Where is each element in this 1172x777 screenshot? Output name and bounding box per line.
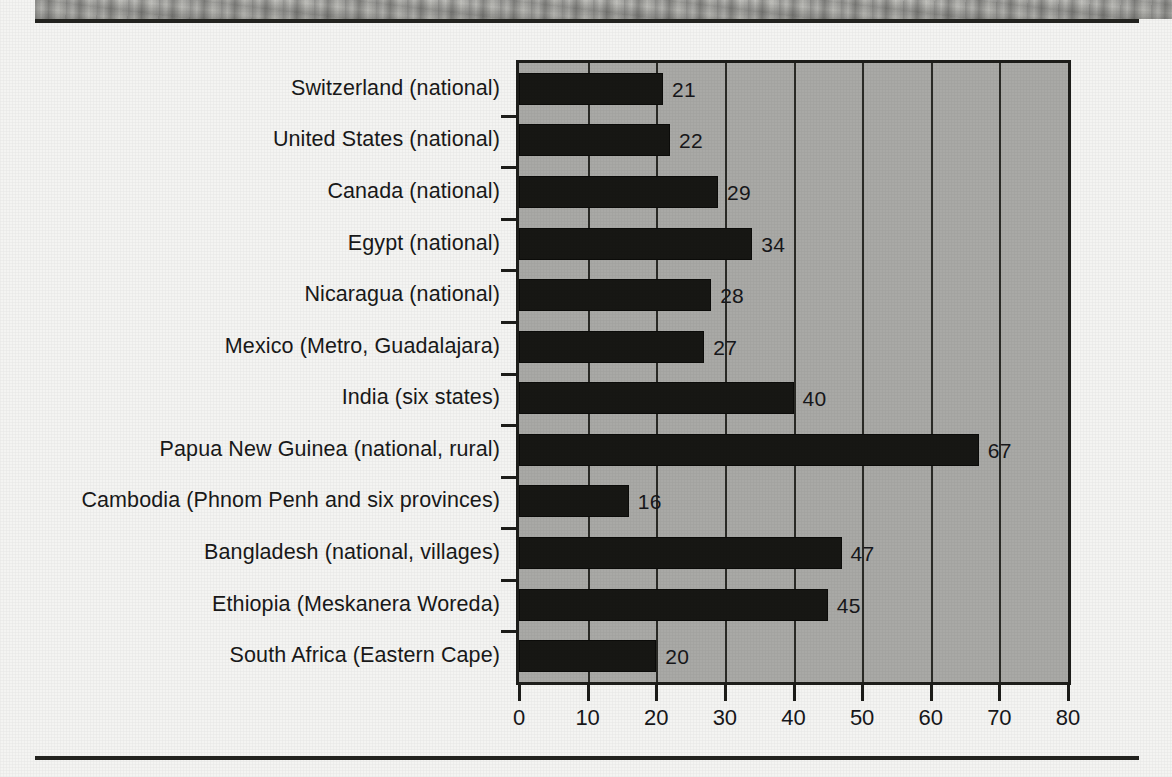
category-label: India (six states) — [342, 387, 500, 409]
bar-value-label: 45 — [837, 595, 861, 616]
x-axis-tick-label: 70 — [987, 707, 1011, 729]
bar-value-label: 34 — [761, 234, 785, 255]
bar-value-label: 29 — [727, 182, 751, 203]
bar-value-label: 20 — [665, 646, 689, 667]
gridline-70 — [999, 63, 1001, 682]
category-label: Ethiopia (Meskanera Woreda) — [212, 594, 500, 616]
bar — [519, 279, 711, 311]
y-axis-tick — [501, 115, 516, 118]
bar — [519, 331, 704, 363]
x-axis-tick-70 — [998, 685, 1001, 701]
gridline-50 — [862, 63, 864, 682]
x-axis-tick-label: 60 — [919, 707, 943, 729]
bar-value-label: 40 — [803, 388, 827, 409]
x-axis-tick-label: 80 — [1056, 707, 1080, 729]
bar — [519, 485, 629, 517]
bar — [519, 382, 794, 414]
x-axis-tick-label: 40 — [781, 707, 805, 729]
category-label: Canada (national) — [327, 181, 500, 203]
x-axis-tick-10 — [587, 685, 590, 701]
bar-value-label: 28 — [720, 285, 744, 306]
y-axis-tick — [501, 269, 516, 272]
category-label: Nicaragua (national) — [304, 284, 500, 306]
bar-value-label: 21 — [672, 79, 696, 100]
y-axis-tick — [501, 579, 516, 582]
bar-value-label: 27 — [713, 337, 737, 358]
horizontal-bar-chart: 212229342827406716474520 Switzerland (na… — [0, 0, 1172, 777]
y-axis-tick — [501, 166, 516, 169]
y-axis-tick — [501, 373, 516, 376]
y-axis-tick — [501, 630, 516, 633]
bar — [519, 640, 656, 672]
y-axis-tick — [501, 527, 516, 530]
bar-value-label: 47 — [851, 543, 875, 564]
figure-page: 212229342827406716474520 Switzerland (na… — [0, 0, 1172, 777]
bar — [519, 589, 828, 621]
bar — [519, 228, 752, 260]
category-label: Cambodia (Phnom Penh and six provinces) — [81, 490, 500, 512]
category-label: United States (national) — [273, 129, 500, 151]
x-axis-tick-label: 30 — [713, 707, 737, 729]
bar-value-label: 22 — [679, 130, 703, 151]
x-axis-tick-30 — [724, 685, 727, 701]
y-axis-tick — [501, 218, 516, 221]
gridline-60 — [931, 63, 933, 682]
category-label: Egypt (national) — [348, 233, 500, 255]
x-axis-tick-label: 20 — [644, 707, 668, 729]
bar — [519, 434, 979, 466]
x-axis-tick-label: 10 — [575, 707, 599, 729]
bar-value-label: 16 — [638, 491, 662, 512]
bar — [519, 537, 842, 569]
x-axis-tick-80 — [1067, 685, 1070, 701]
x-axis-tick-20 — [655, 685, 658, 701]
bar-value-label: 67 — [988, 440, 1012, 461]
y-axis-tick — [501, 321, 516, 324]
y-axis-tick — [501, 424, 516, 427]
x-axis-tick-label: 0 — [513, 707, 525, 729]
bottom-horizontal-rule — [35, 756, 1139, 760]
x-axis-tick-50 — [861, 685, 864, 701]
x-axis-tick-label: 50 — [850, 707, 874, 729]
category-label: Mexico (Metro, Guadalajara) — [225, 336, 500, 358]
x-axis-tick-40 — [793, 685, 796, 701]
category-label: Papua New Guinea (national, rural) — [160, 439, 500, 461]
category-label: Switzerland (national) — [291, 78, 500, 100]
bar — [519, 124, 670, 156]
bar — [519, 176, 718, 208]
x-axis-tick-0 — [518, 685, 521, 701]
category-label: Bangladesh (national, villages) — [204, 542, 500, 564]
x-axis-tick-60 — [930, 685, 933, 701]
y-axis-tick — [501, 476, 516, 479]
bar — [519, 73, 663, 105]
category-label: South Africa (Eastern Cape) — [230, 645, 500, 667]
